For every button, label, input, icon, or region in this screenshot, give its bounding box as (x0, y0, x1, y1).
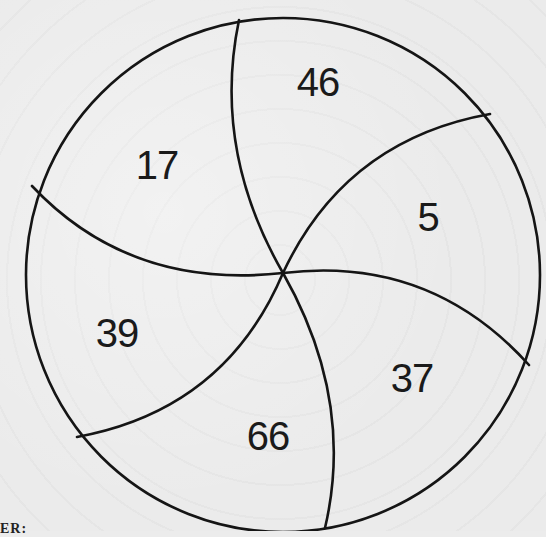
segment-value-lower-left: 39 (96, 313, 139, 353)
spoke-lower-left (77, 273, 283, 437)
spoke-bottom (283, 273, 334, 528)
cropped-answer-label: ER: (0, 521, 27, 537)
spoke-right (283, 270, 529, 365)
segment-value-upper-right: 5 (417, 197, 438, 237)
segment-value-upper-left: 17 (136, 145, 179, 185)
segment-value-lower-right: 37 (391, 358, 434, 398)
segment-value-top: 46 (297, 62, 340, 102)
segment-value-bottom: 66 (247, 416, 290, 456)
spoke-upper-right (283, 114, 490, 273)
spoke-left (32, 186, 283, 275)
spoke-top (232, 20, 283, 273)
